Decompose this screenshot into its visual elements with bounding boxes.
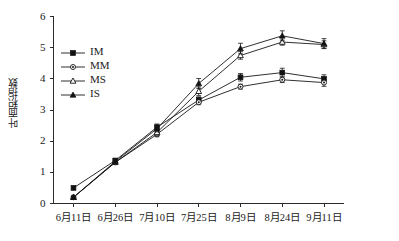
legend-marker-open-triangle-icon xyxy=(60,73,86,85)
legend-label: MM xyxy=(86,59,110,71)
legend-item-is[interactable]: IS xyxy=(60,86,134,100)
legend-label: MS xyxy=(86,73,106,85)
legend-marker-filled-square-icon xyxy=(60,45,86,57)
chart-legend: IMMMMSIS xyxy=(60,44,134,100)
legend-marker-filled-triangle-icon xyxy=(60,87,86,99)
legend-label: IS xyxy=(86,87,100,99)
legend-label: IM xyxy=(86,45,103,57)
x-axis-ticks xyxy=(74,204,325,208)
legend-item-ms[interactable]: MS xyxy=(60,72,134,86)
plot-area xyxy=(0,0,399,241)
legend-item-mm[interactable]: MM xyxy=(60,58,134,72)
y-axis-ticks xyxy=(50,17,54,204)
legend-item-im[interactable]: IM xyxy=(60,44,134,58)
legend-marker-open-circle-icon xyxy=(60,59,86,71)
leaf-area-index-line-chart: 叶面积指数 0123456 6月11日6月26日7月10日7月25日8月9日8月… xyxy=(0,0,399,241)
